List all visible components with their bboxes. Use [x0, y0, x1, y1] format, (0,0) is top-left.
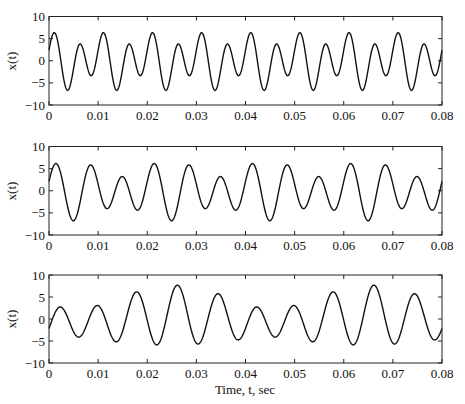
signal-curve — [49, 285, 442, 345]
y-tick-label: 5 — [39, 161, 46, 176]
x-tick-label: 0.05 — [283, 238, 306, 253]
x-tick-label: 0.08 — [431, 238, 454, 253]
x-tick-label: 0.03 — [185, 238, 208, 253]
x-tick-label: 0.01 — [87, 366, 110, 381]
y-axis-label: x(t) — [4, 310, 19, 329]
x-tick-label: 0.02 — [136, 366, 159, 381]
x-tick-label: 0.05 — [283, 108, 306, 123]
plot-panel-top: x(t) −10−50510 00.010.020.030.040.050.06… — [4, 9, 453, 123]
x-tick-label: 0.04 — [234, 366, 257, 381]
x-tick-label: 0.02 — [136, 108, 159, 123]
x-tick-label: 0.07 — [382, 366, 405, 381]
x-tick-labels: 00.010.020.030.040.050.060.070.08 — [46, 238, 454, 253]
y-tick-label: 5 — [39, 31, 46, 46]
y-tick-label: 0 — [39, 312, 46, 327]
x-tick-labels: 00.010.020.030.040.050.060.070.08 — [46, 108, 454, 123]
x-tick-label: 0.08 — [431, 366, 454, 381]
signal-curve — [49, 33, 442, 91]
y-tick-label: 10 — [32, 9, 45, 24]
x-tick-label: 0 — [46, 108, 53, 123]
axes-frame — [49, 275, 442, 363]
x-tick-label: 0.01 — [87, 238, 110, 253]
figure: x(t) −10−50510 00.010.020.030.040.050.06… — [0, 0, 465, 404]
x-tick-label: 0.06 — [332, 366, 355, 381]
y-tick-label: 10 — [32, 268, 45, 283]
y-tick-label: −10 — [25, 98, 45, 113]
ticks — [49, 147, 442, 236]
x-tick-label: 0.05 — [283, 366, 306, 381]
y-tick-labels: −10−50510 — [25, 268, 45, 371]
x-tick-label: 0.04 — [234, 108, 257, 123]
y-axis-label: x(t) — [4, 52, 19, 71]
y-tick-label: 0 — [39, 53, 46, 68]
signal-curve — [49, 164, 442, 221]
x-tick-label: 0.03 — [185, 366, 208, 381]
y-tick-label: 5 — [39, 290, 46, 305]
axes-frame — [49, 147, 442, 236]
x-tick-label: 0.07 — [382, 108, 405, 123]
y-tick-label: −5 — [31, 205, 45, 220]
y-tick-label: −10 — [25, 356, 45, 371]
x-tick-label: 0.04 — [234, 238, 257, 253]
plot-panel-bottom: x(t) −10−50510 00.010.020.030.040.050.06… — [4, 268, 453, 382]
x-tick-label: 0.03 — [185, 108, 208, 123]
x-tick-label: 0 — [46, 238, 53, 253]
ticks — [49, 17, 442, 106]
y-tick-label: −5 — [31, 334, 45, 349]
y-tick-label: 10 — [32, 139, 45, 154]
x-tick-label: 0.01 — [87, 108, 110, 123]
y-tick-label: −10 — [25, 228, 45, 243]
x-axis-label: Time, t, sec — [215, 382, 275, 397]
ticks — [49, 275, 442, 363]
plot-panel-middle: x(t) −10−50510 00.010.020.030.040.050.06… — [4, 139, 453, 253]
x-tick-label: 0 — [46, 366, 53, 381]
axes-frame — [49, 17, 442, 106]
y-tick-labels: −10−50510 — [25, 9, 45, 113]
x-tick-label: 0.06 — [332, 108, 355, 123]
y-tick-label: 0 — [39, 183, 46, 198]
y-tick-labels: −10−50510 — [25, 139, 45, 243]
x-tick-label: 0.08 — [431, 108, 454, 123]
x-tick-label: 0.07 — [382, 238, 405, 253]
x-tick-labels: 00.010.020.030.040.050.060.070.08 — [46, 366, 454, 381]
y-tick-label: −5 — [31, 75, 45, 90]
x-tick-label: 0.02 — [136, 238, 159, 253]
y-axis-label: x(t) — [4, 182, 19, 201]
x-tick-label: 0.06 — [332, 238, 355, 253]
